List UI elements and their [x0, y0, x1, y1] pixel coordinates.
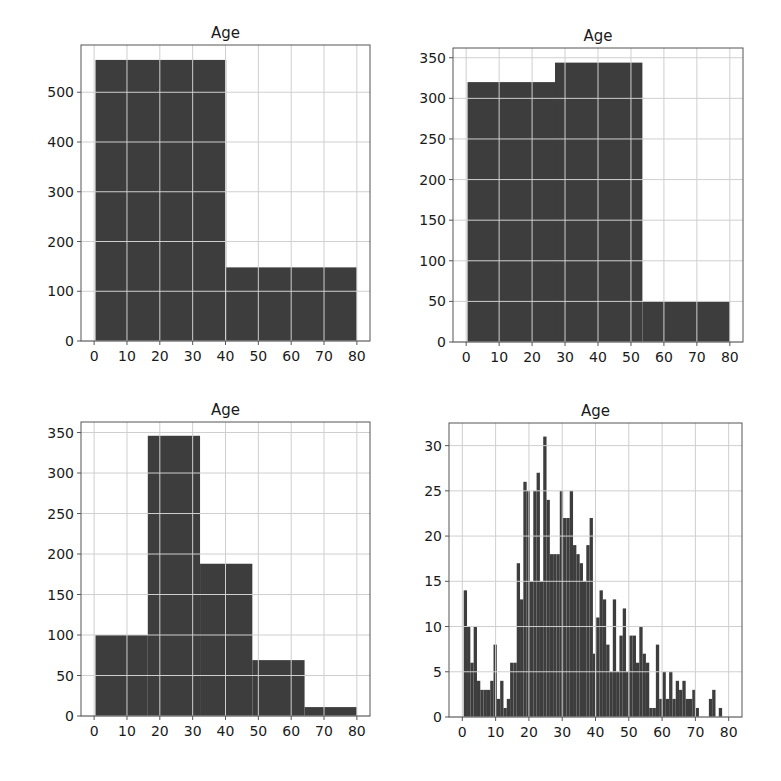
histogram-bar [487, 690, 490, 717]
histogram-bar [480, 690, 483, 717]
histogram-bar [633, 636, 636, 717]
histogram-bar [540, 581, 543, 717]
histogram-bar [556, 554, 559, 717]
histogram-bar [470, 663, 473, 717]
x-tick-label: 20 [520, 724, 538, 740]
histogram-panel-4: Age01020304050607080051015202530 [0, 0, 781, 781]
histogram-bar [503, 708, 506, 717]
histogram-bar [464, 590, 467, 717]
x-tick-label: 60 [653, 724, 671, 740]
histogram-bar [566, 518, 569, 717]
histogram-bar [669, 672, 672, 717]
histogram-bar [616, 672, 619, 717]
histogram-bar [603, 599, 606, 717]
histogram-bar [712, 690, 715, 717]
histogram-bar [543, 437, 546, 717]
y-tick-label: 30 [424, 438, 442, 454]
x-tick-label: 0 [458, 724, 467, 740]
histogram-bar [666, 699, 669, 717]
histogram-bar [576, 554, 579, 717]
chart-title: Age [581, 402, 610, 420]
histogram-bar [500, 681, 503, 717]
histogram-bar [689, 699, 692, 717]
histogram-bar [590, 518, 593, 717]
histogram-bar [629, 636, 632, 717]
grid-lines [449, 423, 742, 717]
histogram-bar [643, 654, 646, 717]
histogram-bar [484, 690, 487, 717]
y-tick-label: 15 [424, 573, 442, 589]
histogram-bar [580, 563, 583, 717]
y-tick-label: 0 [433, 709, 442, 725]
histogram-bar [527, 491, 530, 717]
y-tick-label: 20 [424, 528, 442, 544]
histogram-bar [510, 663, 513, 717]
histogram-bar [609, 672, 612, 717]
histogram-bar [477, 681, 480, 717]
histogram-bar [682, 681, 685, 717]
x-tick-label: 80 [720, 724, 738, 740]
y-tick-label: 25 [424, 483, 442, 499]
histogram-bars [464, 437, 722, 717]
histogram-bar [547, 500, 550, 717]
y-tick-label: 5 [433, 664, 442, 680]
histogram-bar [606, 645, 609, 717]
y-tick-label: 10 [424, 619, 442, 635]
histogram-bar [550, 554, 553, 717]
histogram-bar [596, 617, 599, 717]
histogram-bar [523, 482, 526, 717]
x-axis-ticks: 01020304050607080 [458, 717, 738, 740]
histogram-bar [586, 545, 589, 717]
age-histogram-80-bins: Age01020304050607080051015202530 [0, 0, 781, 781]
histogram-bar [623, 608, 626, 717]
histogram-bar [653, 708, 656, 717]
histogram-bar [662, 672, 665, 717]
histogram-bar [520, 599, 523, 717]
histogram-bar [570, 491, 573, 717]
histogram-bar [619, 636, 622, 717]
histogram-bar [517, 563, 520, 717]
histogram-bar [490, 681, 493, 717]
histogram-bar [656, 645, 659, 717]
histogram-bar [676, 681, 679, 717]
x-tick-label: 50 [620, 724, 638, 740]
histogram-bar [507, 699, 510, 717]
histogram-bar [696, 708, 699, 717]
histogram-bar [719, 708, 722, 717]
x-tick-label: 70 [686, 724, 704, 740]
y-axis-ticks: 051015202530 [424, 438, 449, 725]
x-tick-label: 30 [553, 724, 571, 740]
histogram-bar [553, 554, 556, 717]
histogram-bar [649, 708, 652, 717]
histogram-bar [513, 663, 516, 717]
histogram-bar [573, 545, 576, 717]
histogram-bar [583, 581, 586, 717]
x-tick-label: 40 [587, 724, 605, 740]
histogram-bar [636, 663, 639, 717]
x-tick-label: 10 [487, 724, 505, 740]
histogram-bar [672, 699, 675, 717]
histogram-bar [679, 690, 682, 717]
histogram-bar [646, 663, 649, 717]
histogram-bar [600, 590, 603, 717]
histogram-bar [533, 491, 536, 717]
histogram-bar [709, 699, 712, 717]
histogram-bar [530, 581, 533, 717]
histogram-bar [613, 599, 616, 717]
histogram-bar [686, 699, 689, 717]
histogram-bar [563, 518, 566, 717]
histogram-bar [497, 699, 500, 717]
histogram-bar [537, 473, 540, 717]
